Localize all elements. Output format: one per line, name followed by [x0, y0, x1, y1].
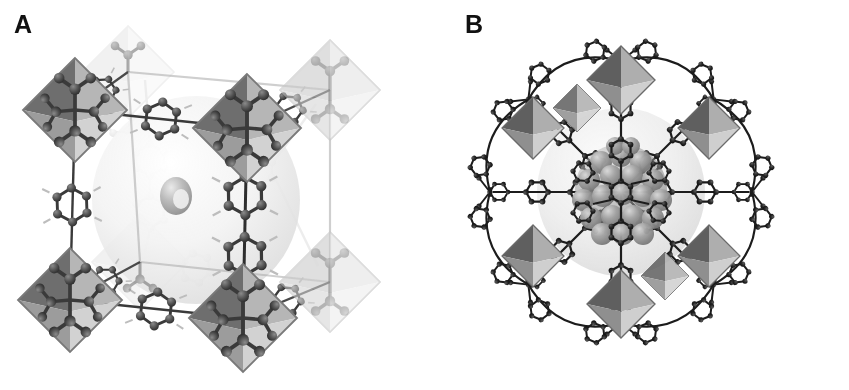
panel-label-b: B — [465, 12, 483, 37]
panel-a-structure — [0, 0, 425, 390]
panel-b-structure — [425, 0, 849, 390]
panel-b-svg — [425, 0, 849, 390]
panel-a: A — [0, 0, 425, 390]
panel-b: B — [425, 0, 849, 390]
panel-a-svg — [0, 0, 425, 390]
panel-label-a: A — [14, 12, 32, 37]
guest-molecule — [160, 177, 192, 215]
figure-container: A — [0, 0, 849, 390]
